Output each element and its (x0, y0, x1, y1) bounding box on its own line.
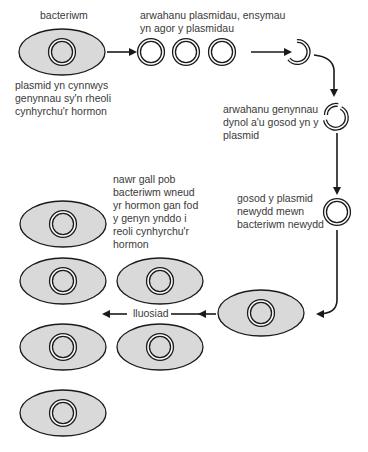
arrow-5 (318, 230, 337, 314)
recombinant-plasmid (325, 200, 349, 224)
plasmid-3 (210, 40, 234, 64)
label-isolate-plasmids: arwahanu plasmidau, ensymau yn agor y pl… (140, 9, 285, 35)
plasmid-2 (174, 40, 198, 64)
daughter-bacterium-5 (117, 324, 203, 370)
daughter-bacterium-6 (20, 390, 106, 436)
opened-plasmid (289, 41, 308, 63)
label-isolate-genes: arwahanu genynnau dynol a'u gosod yn y p… (223, 103, 318, 142)
new-bacterium (218, 290, 304, 336)
arrow-3 (314, 55, 334, 95)
label-multiply: lluosiad (131, 307, 171, 320)
label-plasmid-description: plasmid yn cynnwys genynnau sy'n rheoli … (15, 79, 111, 118)
daughter-bacterium-3 (117, 258, 203, 304)
label-bacterium: bacteriwm (40, 9, 88, 22)
plasmid-1 (139, 40, 163, 64)
original-bacterium (19, 29, 105, 75)
label-result: nawr gall pob bacteriwm wneud yr hormon … (113, 173, 198, 251)
daughter-bacterium-4 (20, 324, 106, 370)
daughter-bacterium-2 (20, 258, 106, 304)
daughter-bacterium-1 (20, 201, 106, 247)
plasmid-with-gene (325, 105, 347, 129)
label-insert-plasmid: gosod y plasmid newydd mewn bacteriwm ne… (237, 192, 324, 231)
